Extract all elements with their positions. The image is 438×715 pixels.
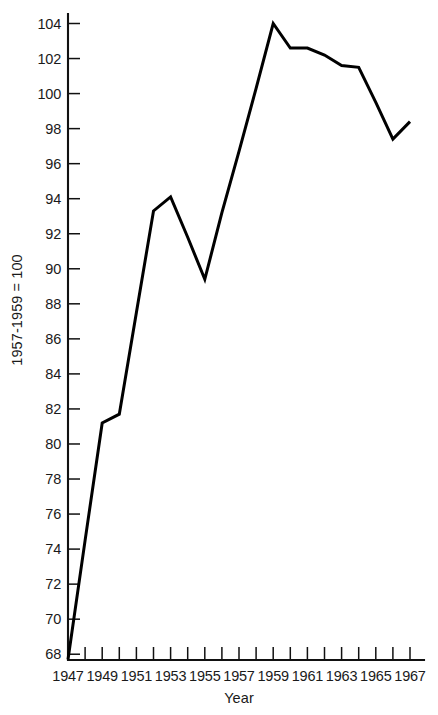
y-axis-tick-label: 104: [37, 16, 61, 32]
x-axis-tick-label: 1965: [360, 668, 392, 684]
x-axis-tick-label: 1957: [223, 668, 255, 684]
y-axis-tick-label: 78: [45, 471, 61, 487]
y-axis-tick-label: 70: [45, 611, 61, 627]
y-axis-tick-label: 68: [45, 646, 61, 662]
y-axis-tick-label: 102: [37, 51, 61, 67]
x-axis-tick-label: 1949: [86, 668, 118, 684]
x-axis-tick-label-group: 1947194919511953195519571959196119631965…: [52, 668, 426, 684]
y-axis-tick-label: 92: [45, 226, 61, 242]
y-axis-tick-label: 100: [37, 86, 61, 102]
x-axis-tick-mark-group: [68, 647, 410, 660]
x-axis-tick-label: 1961: [292, 668, 324, 684]
x-axis-tick-label: 1959: [257, 668, 289, 684]
x-axis-tick-label: 1951: [121, 668, 153, 684]
line-chart-figure: 6870727476788082848688909294969810010210…: [0, 0, 438, 715]
x-axis-tick-label: 1955: [189, 668, 221, 684]
chart-canvas: 6870727476788082848688909294969810010210…: [0, 0, 438, 715]
y-axis-tick-label: 96: [45, 156, 61, 172]
axis-lines: [68, 14, 424, 660]
y-axis-tick-label: 80: [45, 436, 61, 452]
y-axis-tick-label: 84: [45, 366, 61, 382]
x-axis-tick-label: 1947: [52, 668, 84, 684]
y-axis-tick-label: 76: [45, 506, 61, 522]
y-axis-tick-label: 98: [45, 121, 61, 137]
x-axis-title: Year: [224, 690, 254, 706]
y-axis-tick-label: 86: [45, 331, 61, 347]
y-axis-tick-label-group: 6870727476788082848688909294969810010210…: [37, 16, 61, 663]
y-axis-tick-label: 74: [45, 541, 61, 557]
y-axis-tick-label: 72: [45, 576, 61, 592]
x-axis-tick-label: 1967: [394, 668, 426, 684]
data-series-line: [68, 24, 410, 660]
y-axis-tick-label: 90: [45, 261, 61, 277]
y-axis-tick-label: 94: [45, 191, 61, 207]
x-axis-tick-label: 1963: [326, 668, 358, 684]
y-axis-tick-label: 82: [45, 401, 61, 417]
y-axis-title: 1957-1959 = 100: [9, 254, 25, 366]
x-axis-tick-label: 1953: [155, 668, 187, 684]
y-axis-tick-label: 88: [45, 296, 61, 312]
y-axis-tick-mark-group: [68, 24, 80, 655]
